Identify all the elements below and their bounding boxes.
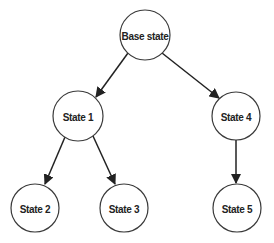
node-label: State 1 (63, 112, 94, 123)
node-label: State 3 (109, 204, 140, 215)
edge-base-to-state1 (96, 53, 128, 97)
node-state-3: State 3 (100, 184, 148, 232)
edge-state1-to-state3 (93, 136, 115, 184)
edge-base-to-state4 (162, 53, 219, 98)
node-label: State 4 (221, 112, 252, 123)
node-state-5: State 5 (213, 184, 261, 232)
node-state-2: State 2 (11, 184, 59, 232)
state-tree-diagram: Base state State 1 State 4 State 2 State… (0, 0, 274, 243)
node-label: Base state (121, 31, 169, 42)
edge-state1-to-state2 (45, 137, 65, 184)
node-state-1: State 1 (53, 91, 103, 141)
node-label: State 2 (20, 204, 51, 215)
node-base-state: Base state (120, 10, 170, 60)
node-label: State 5 (222, 204, 253, 215)
node-state-4: State 4 (212, 92, 260, 140)
